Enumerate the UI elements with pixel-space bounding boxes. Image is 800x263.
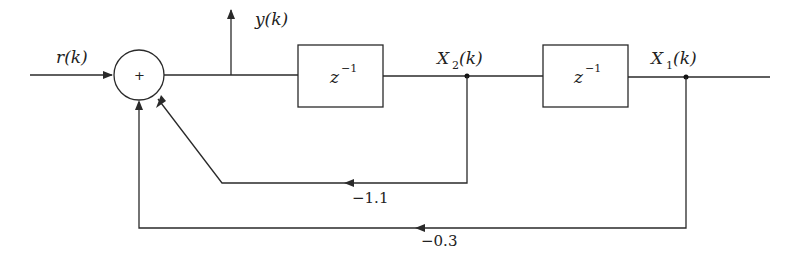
- output-signal: y(k): [231, 9, 288, 75]
- block-diagram: r(k) + y(k) z −1 X 2 (k) z −1 X 1 (k): [0, 0, 800, 263]
- x1-sub: 1: [666, 59, 673, 72]
- x1-base: X: [649, 48, 664, 68]
- delay-block-1: z −1: [298, 45, 383, 107]
- input-signal: r(k): [30, 47, 112, 75]
- feedback-path-x1: −0.3: [135, 77, 686, 250]
- block1-base: z: [329, 67, 340, 87]
- output-label: y(k): [254, 9, 288, 29]
- summing-junction: +: [114, 50, 164, 100]
- feedback-path-x2: −1.1: [156, 76, 467, 207]
- x1-arg: (k): [673, 48, 697, 68]
- block2-exponent: −1: [585, 62, 601, 75]
- block2-base: z: [573, 67, 584, 87]
- block1-exponent: −1: [341, 62, 357, 75]
- gain-x2: −1.1: [352, 189, 388, 207]
- state-x1-node: X 1 (k): [649, 48, 697, 80]
- summing-sign: +: [134, 68, 145, 83]
- x2-base: X: [435, 48, 450, 68]
- delay-block-2: z −1: [543, 45, 628, 107]
- gain-x1: −0.3: [421, 232, 457, 250]
- x2-arg: (k): [459, 48, 483, 68]
- input-label: r(k): [56, 47, 88, 67]
- state-x2-node: X 2 (k): [435, 48, 483, 79]
- x2-sub: 2: [452, 59, 459, 72]
